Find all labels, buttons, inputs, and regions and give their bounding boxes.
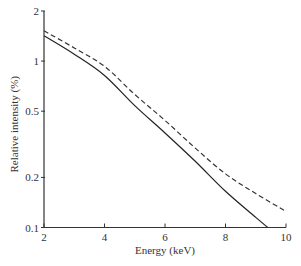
y-tick-label: 0.5 xyxy=(25,105,39,117)
series-line-solid xyxy=(44,36,268,228)
x-ticks: 246810 xyxy=(41,224,292,243)
y-tick-label: 1 xyxy=(34,55,40,67)
x-tick-label: 6 xyxy=(162,231,168,243)
x-tick-label: 4 xyxy=(102,231,108,243)
x-tick-label: 10 xyxy=(281,231,293,243)
y-ticks: 0.10.20.512 xyxy=(25,5,45,234)
x-tick-label: 2 xyxy=(41,231,47,243)
y-tick-label: 0.2 xyxy=(25,171,39,183)
x-tick-label: 8 xyxy=(223,231,229,243)
y-tick-label: 0.1 xyxy=(25,222,39,234)
y-tick-label: 2 xyxy=(34,5,40,17)
series-layer xyxy=(44,31,286,228)
chart: 246810 0.10.20.512 Energy (keV) Relative… xyxy=(0,0,301,266)
axes xyxy=(44,11,286,228)
y-axis-label: Relative intensity (%) xyxy=(8,76,21,173)
x-axis-label: Energy (keV) xyxy=(135,244,195,257)
